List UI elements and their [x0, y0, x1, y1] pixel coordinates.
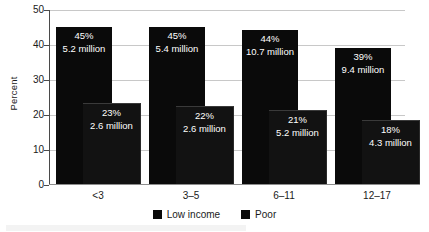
legend-swatch-icon: [241, 210, 250, 219]
bar-poor[interactable]: 23% 2.6 million: [83, 103, 141, 184]
plot-area: 45% 5.2 million 23% 2.6 million 45% 5.4 …: [49, 10, 420, 185]
x-axis-line: [49, 184, 420, 185]
y-tick-label: 0: [18, 180, 44, 190]
x-tick-label-0: <3: [56, 190, 140, 201]
bar-label-poor: 18% 4.3 million: [362, 124, 419, 149]
bar-label-percent: 39%: [335, 51, 391, 64]
y-tick-label: 20: [18, 110, 44, 120]
bar-group: 39% 9.4 million 18% 4.3 million: [335, 10, 419, 184]
bar-poor[interactable]: 21% 5.2 million: [269, 110, 327, 184]
x-tick-label-3: 12–17: [335, 190, 419, 201]
x-tick-label-2: 6–11: [242, 190, 326, 201]
chart-legend: Low income Poor: [0, 209, 429, 220]
x-tick-label-1: 3–5: [149, 190, 233, 201]
bar-label-count: 5.2 million: [269, 127, 326, 140]
y-axis-line: [49, 10, 50, 185]
bar-group: 45% 5.2 million 23% 2.6 million: [56, 10, 140, 184]
bar-label-percent: 22%: [176, 110, 233, 123]
bar-label-count: 2.6 million: [83, 120, 140, 133]
bar-label-poor: 22% 2.6 million: [176, 110, 233, 135]
bar-label-low: 44% 10.7 million: [242, 33, 298, 58]
bar-label-count: 10.7 million: [242, 46, 298, 59]
bar-label-low: 39% 9.4 million: [335, 51, 391, 76]
bar-group: 44% 10.7 million 21% 5.2 million: [242, 10, 326, 184]
y-tick-label: 10: [18, 145, 44, 155]
bar-poor[interactable]: 22% 2.6 million: [176, 106, 234, 184]
bar-label-count: 2.6 million: [176, 123, 233, 136]
bar-poor[interactable]: 18% 4.3 million: [362, 120, 420, 184]
y-tick-mark: [44, 185, 49, 186]
bar-label-percent: 45%: [56, 30, 112, 43]
bar-label-count: 5.2 million: [56, 43, 112, 56]
legend-label: Low income: [167, 209, 220, 220]
bar-label-low: 45% 5.4 million: [149, 30, 205, 55]
legend-item-poor[interactable]: Poor: [241, 209, 276, 220]
page-edge-artifact: [6, 225, 246, 231]
bar-label-percent: 18%: [362, 124, 419, 137]
y-axis-ticks: 50 40 30 20 10 0: [14, 0, 44, 232]
bar-label-percent: 45%: [149, 30, 205, 43]
bar-label-count: 5.4 million: [149, 43, 205, 56]
legend-item-low-income[interactable]: Low income: [153, 209, 220, 220]
bar-label-count: 9.4 million: [335, 64, 391, 77]
legend-label: Poor: [255, 209, 276, 220]
bar-label-low: 45% 5.2 million: [56, 30, 112, 55]
y-tick-label: 50: [18, 5, 44, 15]
bar-label-percent: 21%: [269, 114, 326, 127]
y-tick-label: 30: [18, 75, 44, 85]
bar-label-count: 4.3 million: [362, 137, 419, 150]
legend-swatch-icon: [153, 210, 162, 219]
bar-label-poor: 21% 5.2 million: [269, 114, 326, 139]
bar-chart: Percent 50 40 30 20 10 0 45% 5.2 mil: [0, 0, 429, 232]
bar-label-percent: 23%: [83, 107, 140, 120]
bar-label-poor: 23% 2.6 million: [83, 107, 140, 132]
bar-group: 45% 5.4 million 22% 2.6 million: [149, 10, 233, 184]
bar-label-percent: 44%: [242, 33, 298, 46]
y-tick-label: 40: [18, 40, 44, 50]
